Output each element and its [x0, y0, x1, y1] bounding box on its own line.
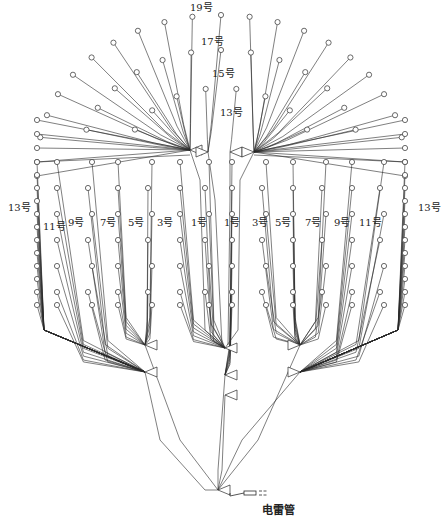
hole-icon: [177, 237, 182, 242]
hole-icon: [287, 108, 292, 113]
hole-icon: [34, 211, 39, 216]
hole-icon: [290, 237, 295, 242]
hole-icon: [34, 159, 39, 164]
hole-icon: [202, 237, 207, 242]
hole-icon: [190, 14, 195, 19]
hole-icon: [177, 263, 182, 268]
delay-label: 13号: [220, 108, 243, 118]
hole-icon: [150, 108, 155, 113]
hole-icon: [323, 211, 328, 216]
hole-icon: [149, 302, 154, 307]
delay-label: 5号: [275, 218, 291, 228]
hole-icon: [149, 263, 154, 268]
hole-icon: [218, 47, 223, 52]
hole-icon: [229, 237, 234, 242]
hole-icon: [349, 211, 354, 216]
hole-icon: [70, 72, 75, 77]
hole-icon: [381, 92, 386, 97]
hole-icon: [275, 19, 280, 24]
hole-icon: [263, 159, 268, 164]
hole-icon: [402, 117, 407, 122]
hole-icon: [34, 145, 39, 150]
hole-icon: [349, 185, 354, 190]
hole-icon: [54, 237, 59, 242]
hole-icon: [377, 237, 382, 242]
hole-icon: [319, 237, 324, 242]
hole-icon: [89, 302, 94, 307]
hole-icon: [323, 263, 328, 268]
hole-icon: [402, 172, 407, 177]
hole-icon: [206, 211, 211, 216]
hole-icon: [402, 159, 407, 164]
hole-icon: [85, 185, 90, 190]
hole-icon: [342, 105, 347, 110]
hole-icon: [44, 113, 49, 118]
hole-icon: [34, 224, 39, 229]
delay-label: 5号: [128, 218, 144, 228]
hole-icon: [349, 237, 354, 242]
hole-icon: [277, 57, 282, 62]
hole-icon: [160, 57, 165, 62]
hole-icon: [349, 289, 354, 294]
hole-icon: [34, 289, 39, 294]
hole-icon: [402, 145, 407, 150]
hole-icon: [263, 263, 268, 268]
hole-icon: [54, 211, 59, 216]
hole-icon: [323, 302, 328, 307]
hole-icon: [290, 211, 295, 216]
delay-label: 19号: [190, 3, 213, 13]
hole-icon: [162, 19, 167, 24]
hole-icon: [349, 263, 354, 268]
hole-icon: [229, 211, 234, 216]
hole-icon: [263, 302, 268, 307]
hole-icon: [229, 302, 234, 307]
hole-icon: [381, 302, 386, 307]
connector-block-icon: [225, 390, 237, 400]
hole-icon: [319, 289, 324, 294]
hole-icon: [206, 263, 211, 268]
hole-icon: [174, 94, 179, 99]
hole-icon: [366, 72, 371, 77]
hole-icon: [202, 289, 207, 294]
hole-icon: [34, 172, 39, 177]
hole-icon: [55, 92, 60, 97]
hole-icon: [84, 127, 89, 132]
hole-icon: [303, 70, 308, 75]
hole-icon: [34, 237, 39, 242]
hole-icon: [248, 50, 253, 55]
hole-icon: [402, 289, 407, 294]
hole-icon: [115, 263, 120, 268]
hole-icon: [229, 289, 234, 294]
hole-icon: [89, 159, 94, 164]
hole-icon: [301, 28, 306, 33]
hole-icon: [402, 263, 407, 268]
hole-icon: [85, 237, 90, 242]
hole-icon: [177, 185, 182, 190]
delay-label: 17号: [201, 37, 224, 47]
delay-label: 7号: [305, 218, 321, 228]
hole-icon: [377, 289, 382, 294]
hole-icon: [115, 237, 120, 242]
hole-icon: [290, 302, 295, 307]
hole-icon: [402, 211, 407, 216]
hole-icon: [229, 185, 234, 190]
hole-icon: [112, 86, 117, 91]
hole-icon: [259, 289, 264, 294]
detonator-label: 电雷管: [262, 505, 295, 516]
hole-icon: [323, 159, 328, 164]
connector-block-icon: [225, 343, 237, 353]
hole-icon: [115, 185, 120, 190]
hole-icon: [349, 302, 354, 307]
hole-icon: [290, 289, 295, 294]
hole-icon: [326, 40, 331, 45]
hole-icon: [259, 237, 264, 242]
hole-icon: [115, 211, 120, 216]
hole-icon: [134, 70, 139, 75]
hole-icon: [85, 289, 90, 294]
hole-icon: [290, 263, 295, 268]
hole-icon: [402, 276, 407, 281]
hole-icon: [115, 302, 120, 307]
delay-label: 9号: [334, 218, 350, 228]
hole-icon: [145, 289, 150, 294]
delay-label: 9号: [68, 218, 84, 228]
